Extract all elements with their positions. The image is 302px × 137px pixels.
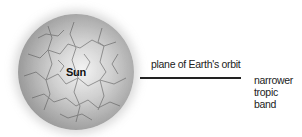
tropic-label-line2: tropic band	[254, 86, 302, 110]
sun-label: Sun	[18, 14, 134, 130]
orbit-plane-label: plane of Earth's orbit	[151, 58, 240, 70]
orbit-plane-line	[140, 77, 241, 79]
sun-sphere-icon: Sun	[18, 14, 134, 130]
tropic-band-label: narrower tropic band	[254, 74, 302, 110]
sun-diagram: Sun	[18, 14, 134, 130]
tropic-label-line1: narrower	[254, 74, 302, 86]
